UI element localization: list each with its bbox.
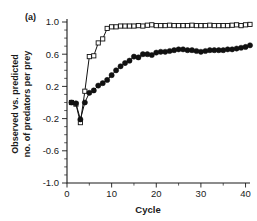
y-tick-label: -1.0 <box>43 177 59 188</box>
marker-square <box>172 24 176 28</box>
y-tick-label: 1.0 <box>46 16 59 27</box>
marker-circle <box>118 64 123 69</box>
data-series <box>69 22 253 124</box>
marker-circle <box>114 68 119 73</box>
marker-square <box>230 23 234 27</box>
marker-circle <box>109 73 114 78</box>
chart-canvas: -1.0-0.6-0.20.20.61.0010203040 Cycle (a)… <box>0 0 257 221</box>
marker-square <box>114 25 118 29</box>
marker-square <box>132 24 136 28</box>
marker-square <box>105 26 109 30</box>
marker-square <box>217 24 221 28</box>
y-axis-title-line1: Observed vs. predicted <box>10 54 20 154</box>
tick-labels: -1.0-0.6-0.20.20.61.0010203040 <box>43 16 251 199</box>
marker-square <box>199 24 203 28</box>
marker-square <box>92 54 96 58</box>
x-tick-label: 30 <box>196 188 207 199</box>
x-tick-label: 10 <box>106 188 117 199</box>
marker-square <box>127 24 131 28</box>
marker-square <box>159 24 163 28</box>
marker-square <box>83 89 87 93</box>
marker-square <box>203 24 207 28</box>
marker-square <box>101 37 105 41</box>
marker-square <box>226 24 230 28</box>
marker-circle <box>105 77 110 82</box>
y-axis-title-line2: no. of predators per prey <box>22 51 32 158</box>
y-tick-label: -0.2 <box>43 113 59 124</box>
marker-circle <box>91 88 96 93</box>
marker-square <box>145 23 149 27</box>
marker-circle <box>136 55 141 60</box>
marker-square <box>243 23 247 27</box>
series-line-filled-circles <box>71 45 250 119</box>
marker-square <box>87 55 91 59</box>
marker-square <box>96 41 100 45</box>
marker-square <box>150 23 154 27</box>
figure-panel-a: -1.0-0.6-0.20.20.61.0010203040 Cycle (a)… <box>0 0 257 221</box>
y-tick-label: 0.6 <box>46 49 59 60</box>
marker-square <box>163 24 167 28</box>
x-tick-label: 40 <box>240 188 251 199</box>
y-tick-label: 0.2 <box>46 81 59 92</box>
marker-square <box>208 23 212 27</box>
marker-square <box>235 23 239 27</box>
marker-circle <box>78 117 83 122</box>
axis-titles: Cycle (a) Observed vs. predicted no. of … <box>10 12 161 215</box>
series-line-open-squares <box>71 24 250 122</box>
x-tick-label: 20 <box>151 188 162 199</box>
marker-square <box>181 24 185 28</box>
marker-square <box>185 24 189 28</box>
axis-spines <box>67 19 250 183</box>
marker-square <box>154 24 158 28</box>
marker-square <box>212 24 216 28</box>
marker-circle <box>247 43 252 48</box>
marker-square <box>118 24 122 28</box>
y-tick-label: -0.6 <box>43 145 59 156</box>
series-filled-circles <box>69 43 253 122</box>
panel-label: (a) <box>25 12 36 22</box>
axes <box>62 19 250 188</box>
marker-circle <box>73 101 78 106</box>
marker-square <box>123 24 127 28</box>
marker-square <box>239 24 243 28</box>
marker-circle <box>82 100 87 105</box>
marker-square <box>190 23 194 27</box>
marker-square <box>141 24 145 28</box>
marker-square <box>168 23 172 27</box>
x-axis-title: Cycle <box>135 204 160 215</box>
marker-square <box>194 24 198 28</box>
marker-circle <box>100 81 105 86</box>
marker-square <box>248 22 252 26</box>
marker-square <box>221 24 225 28</box>
marker-square <box>136 24 140 28</box>
marker-circle <box>127 58 132 63</box>
x-tick-label: 0 <box>64 188 69 199</box>
marker-square <box>110 25 114 29</box>
series-open-squares <box>69 22 252 124</box>
marker-square <box>176 24 180 28</box>
